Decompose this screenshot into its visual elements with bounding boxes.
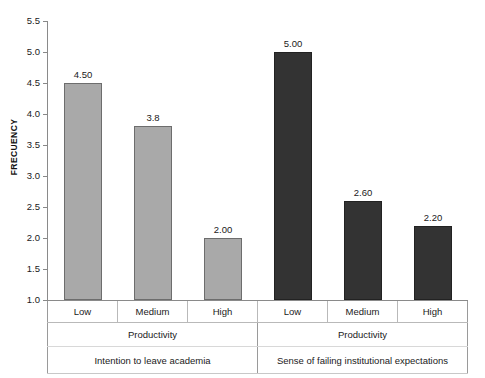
axis-label-row: ProductivityProductivity [48,323,468,347]
group-name-label: Sense of failing institutional expectati… [258,347,468,374]
bar[interactable] [134,126,172,300]
y-axis-tick-label: 4.0 [14,108,40,119]
x-axis-label: Productivity [258,323,468,347]
bar-value-label: 2.20 [398,212,468,223]
bar-cell: 5.00 [258,21,328,300]
bar-value-label: 4.50 [48,69,118,80]
category-cell: Low [258,301,328,323]
bar-value-label: 2.60 [328,187,398,198]
y-axis-tick-label: 5.0 [14,46,40,57]
category-cell: Low [48,301,118,323]
y-axis-tick-label: 5.5 [14,15,40,26]
bar-cell: 2.60 [328,21,398,300]
y-axis-tick-label: 1.0 [14,294,40,305]
bar-value-label: 2.00 [188,224,258,235]
category-axis-table: LowMediumHighLowMediumHigh ProductivityP… [47,301,468,374]
bar[interactable] [274,52,312,300]
y-axis-tick-label: 1.5 [14,263,40,274]
bar[interactable] [64,83,102,300]
bar-value-label: 3.8 [118,112,188,123]
category-cell: Medium [328,301,398,323]
x-axis-label: Productivity [48,323,258,347]
bar-cell: 3.8 [118,21,188,300]
category-cell: High [398,301,468,323]
category-cell: High [188,301,258,323]
bar-cell: 4.50 [48,21,118,300]
bar-cell: 2.20 [398,21,468,300]
category-row: LowMediumHighLowMediumHigh [48,301,468,323]
plot-area: 4.503.82.005.002.602.20 [48,21,468,300]
y-axis-tick-label: 3.5 [14,139,40,150]
bar-chart: FRECUENCY 5.55.04.54.03.53.02.52.01.51.0… [0,0,485,378]
y-axis-tick-label: 2.0 [14,232,40,243]
bar[interactable] [204,238,242,300]
bar[interactable] [344,201,382,300]
bar[interactable] [414,226,452,300]
y-axis-tick-label: 3.0 [14,170,40,181]
group-name-label: Intention to leave academia [48,347,258,374]
bar-value-label: 5.00 [258,38,328,49]
category-cell: Medium [118,301,188,323]
bar-cell: 2.00 [188,21,258,300]
y-axis-tick-label: 2.5 [14,201,40,212]
group-name-row: Intention to leave academiaSense of fail… [48,347,468,374]
y-axis-tick-label: 4.5 [14,77,40,88]
